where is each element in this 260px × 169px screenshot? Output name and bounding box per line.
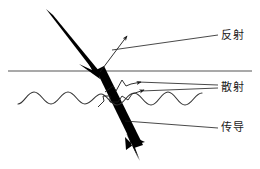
transmitted-beam-arrow — [96, 66, 145, 161]
label-scattering: 散射 — [221, 82, 244, 93]
reflected-ray-arrow — [100, 36, 127, 72]
leader-line-conduction — [125, 121, 218, 128]
figure-root: 反射 散射 传导 — [0, 0, 260, 169]
leader-line-scatter-upper — [138, 82, 218, 85]
leader-line-scatter-lower — [141, 88, 218, 91]
label-reflection: 反射 — [221, 30, 244, 41]
incident-beam-arrow — [46, 9, 104, 79]
label-conduction: 传导 — [221, 122, 244, 133]
leader-line-reflection — [112, 35, 218, 50]
